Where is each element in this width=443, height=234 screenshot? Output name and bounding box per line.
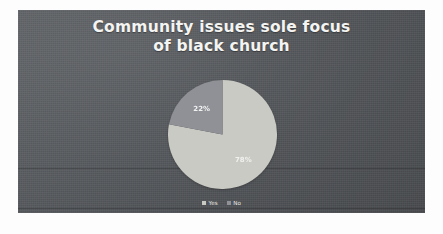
page-canvas: Community issues sole focus of black chu… [0,0,443,234]
pie-slice-label-no: 22% [193,105,210,113]
legend-swatch-yes [202,201,206,205]
legend-swatch-no [227,201,231,205]
pie-slice-group [168,80,277,189]
pie-svg: 78%22% [168,80,277,189]
legend-label-no: No [233,200,241,206]
legend-item-yes[interactable]: Yes [202,200,218,206]
pie-chart: 78%22% [18,10,425,213]
legend-item-no[interactable]: No [227,200,241,206]
presentation-slide: Community issues sole focus of black chu… [18,10,425,213]
legend-label-yes: Yes [208,200,217,206]
chart-legend: Yes No [18,200,425,206]
pie-chart-graphic: 78%22% [168,80,277,189]
pie-slice-label-yes: 78% [235,156,252,164]
